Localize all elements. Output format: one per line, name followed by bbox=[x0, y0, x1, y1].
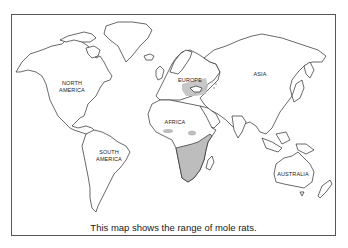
label-north-america: NORTH AMERICA bbox=[52, 80, 92, 93]
british-isles bbox=[156, 66, 164, 80]
label-europe: EUROPE bbox=[172, 77, 208, 84]
mole-rat-range-dot bbox=[215, 83, 217, 85]
tasmania bbox=[300, 192, 304, 196]
map-caption: This map shows the range of mole rats. bbox=[11, 222, 336, 233]
mole-rat-range-dot bbox=[213, 87, 215, 89]
arctic-islands bbox=[60, 32, 96, 42]
label-africa: AFRICA bbox=[160, 119, 190, 126]
borneo bbox=[276, 132, 290, 144]
new-zealand bbox=[318, 180, 332, 198]
indian-subcontinent bbox=[232, 116, 246, 138]
label-australia: AUSTRALIA bbox=[272, 171, 314, 178]
australia-landmass bbox=[274, 152, 314, 188]
indonesia-islands bbox=[262, 138, 282, 152]
madagascar bbox=[206, 156, 214, 170]
south-america-landmass bbox=[82, 130, 130, 212]
label-south-america: SOUTH AMERICA bbox=[92, 149, 126, 162]
mole-rat-range-central-africa bbox=[188, 131, 196, 136]
mole-rat-range-dot bbox=[211, 81, 213, 83]
iceland bbox=[144, 54, 154, 60]
japan bbox=[292, 80, 304, 102]
mole-rat-range-west-africa bbox=[163, 129, 173, 133]
label-asia: ASIA bbox=[248, 71, 272, 78]
asia-landmass bbox=[200, 34, 326, 134]
